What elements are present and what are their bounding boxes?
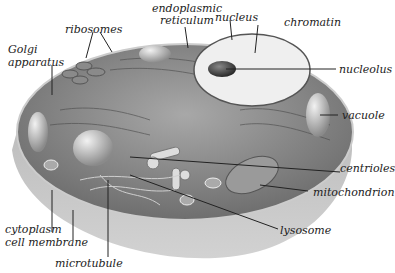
label-golgi-1: Golgi — [8, 44, 38, 56]
label-mitochondrion: mitochondrion — [313, 187, 394, 199]
label-cell-membrane: cell membrane — [5, 237, 88, 249]
label-microtubule: microtubule — [55, 258, 123, 270]
label-nucleus: nucleus — [215, 12, 258, 24]
label-endoplasmic-reticulum-2: reticulum — [160, 15, 214, 27]
label-centrioles: centrioles — [340, 163, 395, 175]
label-chromatin: chromatin — [284, 17, 341, 29]
label-cytoplasm: cytoplasm — [5, 224, 62, 236]
label-ribosomes: ribosomes — [65, 24, 122, 36]
vacuole-left — [73, 130, 113, 166]
vacuole-top — [139, 45, 171, 63]
label-lysosome: lysosome — [280, 225, 331, 237]
vacuole-edge — [28, 112, 48, 152]
label-vacuole: vacuole — [342, 110, 385, 122]
label-nucleolus: nucleolus — [339, 64, 392, 76]
label-golgi-2: apparatus — [8, 57, 64, 69]
